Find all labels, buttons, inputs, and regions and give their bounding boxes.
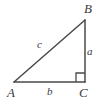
- vertex-label-b: B: [84, 2, 92, 15]
- right-angle-marker-icon: [76, 73, 85, 82]
- vertex-label-a: A: [7, 86, 15, 99]
- side-label-a: a: [87, 46, 93, 57]
- side-label-b: b: [47, 86, 53, 97]
- side-label-c: c: [37, 39, 42, 50]
- vertex-label-c: C: [79, 86, 88, 99]
- right-triangle-figure: A B C a b c: [0, 0, 102, 106]
- side-c-line: [14, 20, 85, 82]
